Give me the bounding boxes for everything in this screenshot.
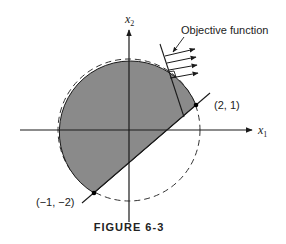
objective-arrow-1 xyxy=(165,49,195,56)
x1-axis-label: x1 xyxy=(258,123,267,139)
point-neg1-neg2 xyxy=(92,191,97,196)
objective-arrow-3 xyxy=(169,65,197,70)
x2-label-sub: 2 xyxy=(130,19,134,28)
point-neg1-neg2-label: (−1, −2) xyxy=(36,196,75,208)
point-2-1-label: (2, 1) xyxy=(214,99,240,111)
figure-caption: FIGURE 6-3 xyxy=(0,221,258,233)
objective-label-leader xyxy=(173,37,184,52)
x2-axis-label: x2 xyxy=(125,12,134,28)
objective-function-label: Objective function xyxy=(181,24,268,36)
feasible-region xyxy=(59,61,196,193)
x1-label-sub: 1 xyxy=(263,130,267,139)
point-2-1 xyxy=(194,103,199,108)
objective-arrow-2 xyxy=(167,57,196,63)
